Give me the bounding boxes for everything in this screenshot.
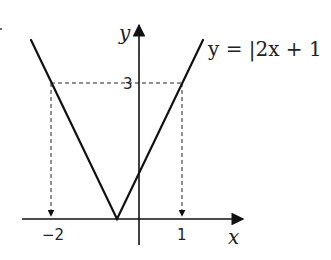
- stray-dot: [0, 28, 2, 30]
- absolute-value-graph: y x 3 −2 1 y = |2x + 1: [0, 0, 331, 260]
- y-axis-label: y: [118, 21, 131, 45]
- equation-label: y = |2x + 1: [207, 37, 322, 62]
- abs-curve: [31, 40, 203, 219]
- tick-label-1: 1: [177, 226, 187, 244]
- tick-label-neg2: −2: [42, 226, 64, 244]
- tick-label-3: 3: [123, 75, 133, 93]
- x-axis-label: x: [228, 225, 239, 249]
